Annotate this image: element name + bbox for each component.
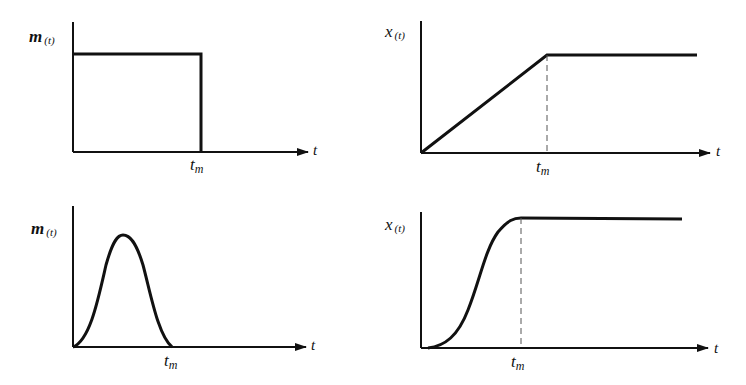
y-label-main: m [29,27,42,46]
panel-bottom-left [73,206,306,347]
y-label-main: x [385,22,393,41]
y-label-main: x [385,215,393,234]
tm-sub: m [541,164,550,178]
bell-curve [73,235,172,347]
pulse-curve [73,54,201,152]
tm-sub: m [195,162,204,176]
x-axis-label: t [311,337,315,354]
panel-top-left [73,22,308,152]
panel-bottom-right [421,212,708,348]
y-axis-label: m(t) [29,27,55,47]
s-curve [428,218,682,348]
x-axis-label: t [313,142,317,159]
panel-top-right [421,21,710,153]
y-axis-label: x(t) [385,215,405,235]
x-axis-label: t [714,340,718,357]
y-axis-label: m(t) [31,219,57,239]
ramp-curve [421,55,697,153]
y-label-main: m [31,219,44,238]
tm-marker-label: tm [511,352,524,374]
diagram-canvas [0,0,746,385]
tm-sub: m [169,358,178,372]
y-label-sub: (t) [44,34,54,46]
tm-marker-label: tm [164,351,177,373]
y-label-sub: (t) [395,29,405,41]
tm-sub: m [516,359,525,373]
tm-marker-label: tm [536,157,549,179]
y-label-sub: (t) [395,222,405,234]
y-label-sub: (t) [46,226,56,238]
x-axis-label: t [716,143,720,160]
tm-marker-label: tm [190,155,203,177]
y-axis-label: x(t) [385,22,405,42]
